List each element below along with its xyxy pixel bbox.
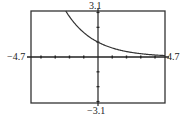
graph-plot bbox=[0, 0, 180, 118]
x-min-label: −4.7 bbox=[7, 52, 25, 62]
y-min-label: −3.1 bbox=[87, 106, 105, 116]
x-max-label: 4.7 bbox=[167, 52, 180, 62]
y-max-label: 3.1 bbox=[89, 1, 102, 11]
